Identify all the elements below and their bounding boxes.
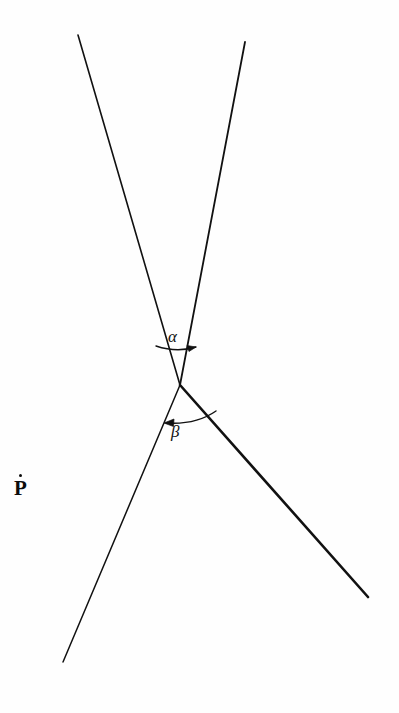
- alpha-arrowhead-icon: [187, 346, 196, 352]
- line-2-lower-segment: [63, 385, 180, 662]
- line-1-lower-segment: [180, 385, 368, 597]
- line-1-upper-segment: [78, 35, 180, 385]
- point-p-label: P: [14, 478, 27, 499]
- beta-angle-label: β: [171, 423, 179, 440]
- alpha-angle-label: α: [168, 328, 177, 345]
- line-2-upper-segment: [180, 42, 245, 385]
- angle-diagram-svg: [0, 0, 399, 713]
- figure-canvas: α β P: [0, 0, 399, 713]
